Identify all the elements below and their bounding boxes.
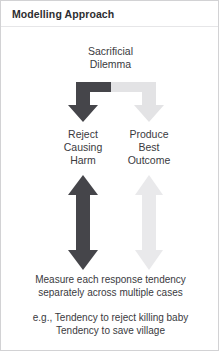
branch-right-line-1: Produce [101,128,197,141]
example-note: e.g., Tendency to reject killing baby Te… [1,311,219,337]
example-note-line-2: Tendency to save village [1,324,219,337]
double-headed-vertical-arrow-left [68,175,98,270]
example-note-line-1: e.g., Tendency to reject killing baby [1,311,219,324]
double-headed-vertical-arrow-right [135,175,163,270]
measure-note-line-2: separately across multiple cases [1,286,219,299]
source-node-line-1: Sacrificial [1,45,219,58]
branch-right-line-2: Best [101,141,197,154]
elbow-down-left-arrow [68,82,111,122]
elbow-down-right-arrow [111,82,164,122]
measure-note: Measure each response tendency separatel… [1,273,219,299]
branch-right-line-3: Outcome [101,154,197,167]
source-node-line-2: Dilemma [1,58,219,71]
slide-canvas: Modelling Approach Sacrificial Dilemma R… [0,0,219,351]
measure-note-line-1: Measure each response tendency [1,273,219,286]
branch-label-produce-best-outcome: Produce Best Outcome [101,128,197,167]
source-node: Sacrificial Dilemma [1,45,219,71]
